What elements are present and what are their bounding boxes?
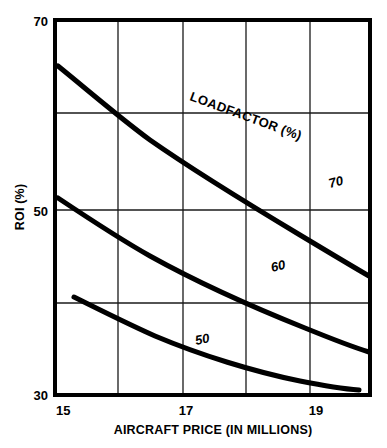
x-tick-label-19: 19 <box>309 403 323 418</box>
y-tick-label-30: 30 <box>34 388 48 403</box>
x-axis-title: AIRCRAFT PRICE (IN MILLIONS) <box>114 423 313 437</box>
y-tick-label-50: 50 <box>34 204 48 219</box>
x-tick-label-17: 17 <box>179 403 193 418</box>
roi-vs-aircraft-price-chart: 70 60 50 LOADFACTOR (%) 70 50 30 15 17 1… <box>0 0 387 448</box>
y-axis-title: ROI (%) <box>13 184 27 231</box>
x-tick-label-15: 15 <box>56 403 70 418</box>
chart-figure: 70 60 50 LOADFACTOR (%) 70 50 30 15 17 1… <box>0 0 387 448</box>
y-tick-label-70: 70 <box>34 14 48 29</box>
